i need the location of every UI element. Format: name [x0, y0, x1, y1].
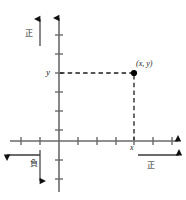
x-axis-group — [10, 137, 178, 145]
projection-lines — [60, 73, 134, 140]
plotted-point — [131, 70, 137, 76]
y-axis-group — [55, 18, 63, 192]
y-value-label: y — [46, 68, 50, 77]
point-coordinate-label: (x, y) — [136, 60, 152, 68]
positive-vertical-label: 正 — [25, 30, 33, 38]
coordinate-plane-diagram: (x, y) y x 正 負 正 — [0, 0, 186, 200]
positive-horizontal-label: 正 — [147, 162, 155, 170]
negative-horizontal-label: 負 — [30, 160, 38, 168]
x-value-label: x — [130, 144, 134, 152]
